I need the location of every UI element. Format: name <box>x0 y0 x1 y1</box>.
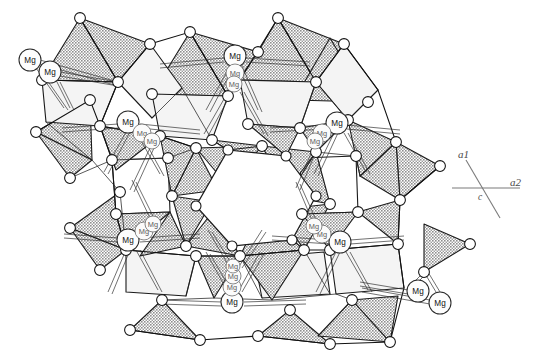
oxygen-atom <box>111 209 122 220</box>
cation-label-text: Mg <box>412 287 424 296</box>
oxygen-atom <box>391 137 402 148</box>
oxygen-atom <box>223 91 234 102</box>
cation-label-text: Mg <box>227 283 237 292</box>
cation-label-text: Mg <box>228 262 238 271</box>
oxygen-atom <box>195 335 206 346</box>
oxygen-atom <box>227 241 237 251</box>
cation-label-text: Mg <box>24 56 36 65</box>
oxygen-atom <box>107 155 118 166</box>
oxygen-atom <box>297 209 308 220</box>
oxygen-atom <box>243 119 254 130</box>
oxygen-atom <box>285 305 296 316</box>
cation-label-mg-bottom-right-out: Mg <box>429 292 451 314</box>
oxygen-atom <box>95 265 106 276</box>
oxygen-atom <box>339 39 350 50</box>
oxygen-atom <box>147 89 158 100</box>
oxygen-atom <box>223 145 233 155</box>
oxygen-atom <box>351 151 362 162</box>
oxygen-atom <box>295 123 306 134</box>
oxygen-atom <box>65 223 76 234</box>
oxygen-atom <box>385 337 396 348</box>
cation-label-text: Mg <box>331 119 343 128</box>
cation-label-text: Mg <box>147 137 157 146</box>
cation-label-text: Mg <box>122 236 134 245</box>
oxygen-atom <box>299 245 310 256</box>
cation-label-text: Mg <box>44 68 56 77</box>
oxygen-atom <box>115 187 126 198</box>
cation-label-text: Mg <box>434 299 446 308</box>
oxygen-atom <box>85 95 96 106</box>
cation-label-text: Mg <box>229 80 239 89</box>
cation-label-text: Mg <box>122 118 134 127</box>
oxygen-atom <box>95 121 106 132</box>
cation-label-mg-bottom-right-in: Mg <box>407 280 429 302</box>
oxygen-atom <box>31 127 42 138</box>
oxygen-atom <box>419 267 430 278</box>
oxygen-atom <box>145 39 156 50</box>
cation-label-mg-lower-right-a: Mg <box>329 231 351 253</box>
octahedron-face <box>126 250 196 296</box>
crystal-structure-figure: MgMgMgMgMgMgMgMgMgMgMgMgMgMgMgMgMgMgMgMg… <box>0 0 541 354</box>
oxygen-atom <box>311 191 321 201</box>
oxygen-atom <box>393 239 404 250</box>
oxygen-atom <box>125 325 136 336</box>
oxygen-atom <box>311 77 322 88</box>
oxygen-atom <box>257 141 268 152</box>
oxygen-atom <box>191 251 202 262</box>
structure-canvas: MgMgMgMgMgMgMgMgMgMgMgMgMgMgMgMgMgMgMgMg… <box>0 0 541 354</box>
oxygen-atom <box>353 207 364 218</box>
cation-label-mg-top-center-c: Mg <box>226 76 242 92</box>
oxygen-atom <box>113 77 124 88</box>
cation-label-text: Mg <box>309 222 319 231</box>
oxygen-atom <box>347 295 358 306</box>
oxygen-atom <box>191 143 202 154</box>
axis-label-a2: a2 <box>510 176 522 188</box>
cation-label-mg-lower-left-c: Mg <box>145 216 161 232</box>
cation-label-mg-bottom-center-d: Mg <box>226 259 240 273</box>
axis-label-a1: a1 <box>458 148 469 160</box>
oxygen-atom <box>363 97 374 108</box>
cation-label-text: Mg <box>148 220 158 229</box>
oxygen-atom <box>181 241 192 252</box>
cation-label-mg-top-left-outer: Mg <box>19 49 41 71</box>
oxygen-atom <box>395 195 406 206</box>
oxygen-atom <box>75 13 86 24</box>
oxygen-atom <box>253 47 264 58</box>
oxygen-atom <box>185 27 196 38</box>
oxygen-atom <box>273 13 284 24</box>
cation-label-mg-upper-right-c: Mg <box>307 133 323 149</box>
oxygen-atom <box>281 151 291 161</box>
cation-label-text: Mg <box>334 238 346 247</box>
cation-label-mg-top-left-inner: Mg <box>39 61 61 83</box>
oxygen-atom <box>325 199 336 210</box>
oxygen-atom <box>207 135 218 146</box>
oxygen-atom <box>167 191 178 202</box>
cation-label-text: Mg <box>226 298 238 307</box>
cation-label-mg-lower-right-c: Mg <box>306 218 322 234</box>
oxygen-atom <box>325 339 336 350</box>
oxygen-atom <box>163 153 174 164</box>
oxygen-atom <box>435 161 446 172</box>
oxygen-atom <box>287 235 297 245</box>
oxygen-atom <box>65 173 76 184</box>
cation-label-text: Mg <box>229 52 241 61</box>
oxygen-atom <box>191 201 201 211</box>
oxygen-atom <box>465 239 476 250</box>
oxygen-atom <box>253 331 264 342</box>
cation-label-mg-upper-left-c: Mg <box>144 133 160 149</box>
oxygen-atom <box>157 295 168 306</box>
cation-label-text: Mg <box>310 137 320 146</box>
